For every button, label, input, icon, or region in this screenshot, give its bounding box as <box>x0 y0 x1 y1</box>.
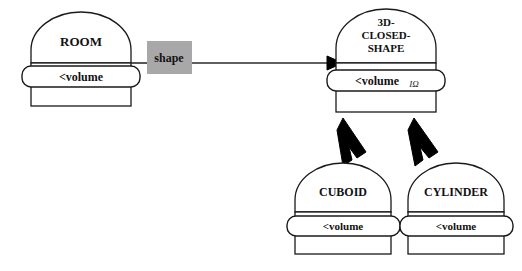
closed-shape-attribute-marker: IΩ <box>408 79 419 89</box>
room-attribute-label: <volume <box>59 70 104 84</box>
cuboid-class-name: CUBOID <box>319 185 367 199</box>
assoc-label-text: shape <box>154 51 184 65</box>
closed-shape-attribute-label: <volume <box>355 74 400 88</box>
node-cuboid[interactable]: CUBOID <volume <box>287 163 400 254</box>
diagram-canvas: ROOM <volume shape 3D- CLOSED- SHAPE <vo… <box>0 0 522 271</box>
room-class-name: ROOM <box>60 34 102 49</box>
cylinder-attribute-label: <volume <box>436 220 477 232</box>
closed-shape-class-name-line3: SHAPE <box>368 42 405 54</box>
edge-cuboid-inheritance[interactable] <box>337 118 366 166</box>
cuboid-inheritance-arrow <box>337 118 366 166</box>
closed-shape-class-name-line1: 3D- <box>377 16 394 28</box>
closed-shape-class-name-line2: CLOSED- <box>362 29 411 41</box>
node-closed-shape[interactable]: 3D- CLOSED- SHAPE <volume IΩ <box>327 9 445 112</box>
class-diagram: ROOM <volume shape 3D- CLOSED- SHAPE <vo… <box>0 0 522 271</box>
node-cylinder[interactable]: CYLINDER <volume <box>400 163 513 254</box>
cylinder-inheritance-arrow <box>408 118 438 166</box>
edge-cylinder-inheritance[interactable] <box>408 118 438 166</box>
cuboid-attribute-label: <volume <box>323 220 364 232</box>
edge-room-to-closed-shape[interactable]: shape <box>131 41 343 74</box>
cylinder-class-name: CYLINDER <box>424 185 488 199</box>
node-room[interactable]: ROOM <volume <box>22 12 140 106</box>
